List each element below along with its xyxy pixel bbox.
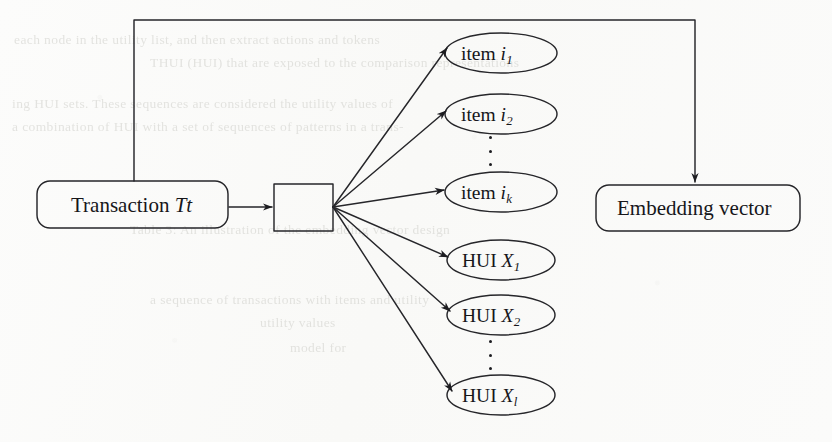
hui-xl-node-label: HUI Xl	[462, 386, 517, 406]
transaction-node-label: Transaction Tt	[71, 195, 192, 216]
items-ellipsis-icon	[489, 136, 493, 166]
edge-transaction-to-embedding-loop	[134, 20, 695, 182]
hui-x2-node-label: HUI X2	[462, 306, 520, 326]
edge-encoder-to-hui-x2	[333, 207, 450, 311]
item-ik-node-label: item ik	[461, 183, 512, 203]
diagram-canvas: each node in the utility list, and then …	[0, 0, 832, 442]
edge-encoder-to-hui-xl	[333, 207, 452, 391]
hui-x1-node-label: HUI X1	[462, 251, 520, 271]
diagram-vector-layer	[0, 0, 832, 442]
transaction-symbol: Tt	[175, 193, 193, 217]
embedding-node-label: Embedding vector	[617, 198, 772, 219]
edge-encoder-to-hui-x1	[333, 207, 448, 257]
item-i1-node-label: item i1	[461, 44, 512, 64]
hui-ellipsis-icon	[489, 340, 493, 370]
edge-encoder-to-item-i1	[333, 48, 447, 207]
item-i2-node-label: item i2	[461, 105, 512, 125]
encoder-node-shape	[274, 184, 333, 231]
